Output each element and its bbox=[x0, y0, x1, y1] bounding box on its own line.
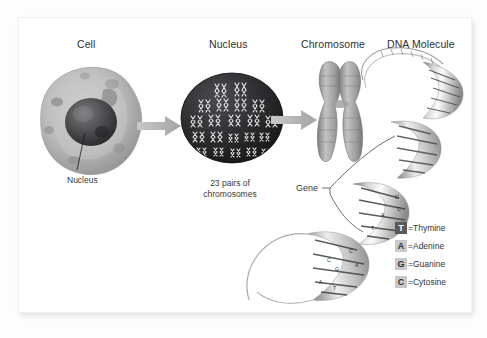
base-letter: C bbox=[349, 248, 353, 254]
column-heading-chromosome: Chromosome bbox=[301, 38, 365, 50]
legend-item-cytosine: C =Cytosine bbox=[395, 275, 469, 288]
nucleus-leader-line bbox=[77, 133, 85, 170]
gene-label: Gene bbox=[296, 183, 318, 194]
legend-name-thymine: Thymine bbox=[413, 223, 446, 233]
base-letter: C bbox=[327, 257, 331, 263]
base-legend: T =Thymine A =Adenine G =Guanine C =Cyto… bbox=[395, 221, 469, 293]
legend-name-adenine: Adenine bbox=[413, 241, 444, 251]
chromosome-illustration bbox=[317, 62, 362, 162]
column-heading-dna-molecule: DNA Molecule bbox=[387, 38, 455, 50]
legend-label-adenine: =Adenine bbox=[408, 241, 444, 251]
legend-name-guanine: Guanine bbox=[413, 259, 445, 269]
legend-swatch-g: G bbox=[395, 258, 407, 270]
legend-item-thymine: T =Thymine bbox=[395, 221, 469, 234]
base-letter: A bbox=[381, 212, 385, 218]
legend-label-guanine: =Guanine bbox=[408, 259, 445, 269]
column-heading-cell: Cell bbox=[77, 38, 96, 50]
chromosome-pairs bbox=[191, 83, 277, 157]
arrow-nucleus-to-chromosome bbox=[271, 110, 317, 130]
base-letter: C bbox=[397, 206, 401, 212]
figure-root: Cell Nucleus Chromosome DNA Molecule bbox=[0, 0, 487, 338]
legend-label-cytosine: =Cytosine bbox=[408, 277, 446, 287]
legend-name-cytosine: Cytosine bbox=[413, 277, 446, 287]
dna-base-letters: G C A T C A G C A T bbox=[319, 194, 401, 291]
base-letter: A bbox=[319, 279, 323, 285]
dna-helix-upper bbox=[362, 48, 443, 88]
legend-swatch-t: T bbox=[395, 222, 407, 234]
base-letter: A bbox=[355, 262, 359, 268]
cell-illustration bbox=[41, 67, 142, 174]
arrow-cell-to-nucleus bbox=[137, 116, 181, 136]
chromosome-count-line2: chromosomes bbox=[182, 189, 278, 200]
legend-swatch-a: A bbox=[395, 240, 407, 252]
base-letter: T bbox=[333, 285, 337, 291]
figure-card: Cell Nucleus Chromosome DNA Molecule bbox=[18, 17, 472, 313]
legend-item-adenine: A =Adenine bbox=[395, 239, 469, 252]
cell-nucleus-label: Nucleus bbox=[67, 175, 98, 186]
legend-item-guanine: G =Guanine bbox=[395, 257, 469, 270]
legend-swatch-c: C bbox=[395, 276, 407, 288]
chromosome-count-caption: 23 pairs of chromosomes bbox=[182, 178, 278, 200]
base-letter: G bbox=[335, 266, 339, 272]
legend-label-thymine: =Thymine bbox=[408, 223, 446, 233]
base-letter: G bbox=[395, 194, 399, 200]
gene-leader bbox=[322, 136, 395, 232]
base-letter: T bbox=[371, 225, 375, 231]
column-heading-nucleus: Nucleus bbox=[209, 38, 248, 50]
chromosome-count-line1: 23 pairs of bbox=[182, 178, 278, 189]
nucleus-illustration bbox=[181, 73, 283, 163]
